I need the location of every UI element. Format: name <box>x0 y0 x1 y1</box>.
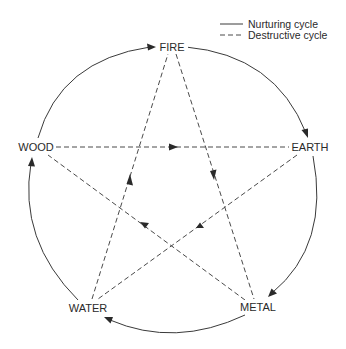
arc-fire-to-earth <box>186 47 306 133</box>
arrowhead-water-icon <box>104 317 113 324</box>
arrowhead-water-fire-icon <box>127 174 134 186</box>
element-nodes: FIRE EARTH METAL WATER WOOD <box>16 40 331 315</box>
arrowhead-fire-icon <box>147 44 156 51</box>
node-wood: WOOD <box>18 141 53 153</box>
legend: Nurturing cycle Destructive cycle <box>220 18 328 41</box>
arc-metal-to-water <box>110 315 245 333</box>
arc-wood-to-fire <box>38 47 150 138</box>
five-elements-diagram: Nurturing cycle Destructive cycle <box>0 0 346 349</box>
node-metal: METAL <box>240 301 276 313</box>
arc-water-to-wood <box>29 163 78 300</box>
node-water: WATER <box>69 302 108 314</box>
arrowhead-metal-wood-icon <box>140 222 149 229</box>
arc-earth-to-metal <box>272 156 317 293</box>
destructive-cycle <box>48 54 297 300</box>
node-fire: FIRE <box>159 41 184 53</box>
nurturing-cycle <box>28 44 317 333</box>
legend-destructive-label: Destructive cycle <box>248 29 328 41</box>
line-fire-to-metal <box>176 54 254 299</box>
arrowhead-wood-icon <box>28 157 35 167</box>
node-earth: EARTH <box>291 141 328 153</box>
arrowhead-earth-icon <box>302 129 309 139</box>
arrowhead-wood-earth-icon <box>169 144 178 151</box>
